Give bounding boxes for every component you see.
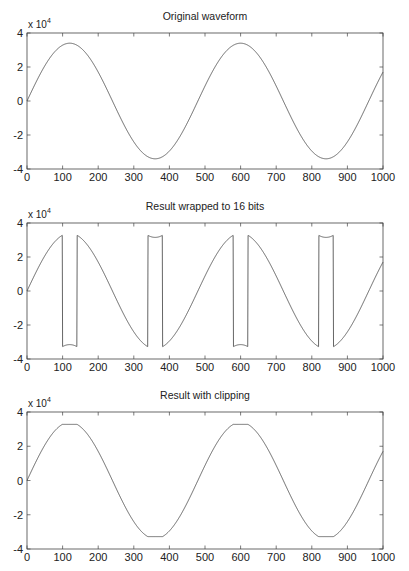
data-line [27,43,383,159]
axes-box [27,33,383,169]
x-tick-label: 1000 [371,551,395,563]
y-exponent: 4 [47,17,51,24]
x-tick-label: 200 [89,361,107,373]
x-tick-label: 400 [160,361,178,373]
x-tick-label: 400 [160,551,178,563]
y-exponent-label: x 104 [28,207,51,220]
y-exponent-label: x 104 [28,17,51,30]
x-tick-label: 1000 [371,171,395,183]
y-tick-label: 2 [17,440,23,452]
x-tick-label: 0 [24,171,30,183]
x-tick-label: 900 [338,361,356,373]
y-tick-label: 4 [17,406,23,418]
y-tick-label: 4 [17,27,23,39]
x-tick-label: 500 [196,551,214,563]
x-tick-label: 900 [338,551,356,563]
plot-original-waveform: Original waveform 0100200300400500600700… [13,10,395,183]
y-tick-label: 0 [17,475,23,487]
x-tick-label: 800 [303,361,321,373]
x-tick-label: 300 [125,551,143,563]
x-tick-label: 900 [338,171,356,183]
x-tick-label: 500 [196,361,214,373]
y-tick-label: 2 [17,61,23,73]
plot-clipping: Result with clipping 0100200300400500600… [13,389,395,563]
y-tick-label: -4 [13,353,23,365]
x-tick-label: 100 [53,551,71,563]
x-tick-label: 300 [125,171,143,183]
x-tick-label: 600 [231,551,249,563]
x-tick-label: 100 [53,361,71,373]
plot-title: Result wrapped to 16 bits [146,200,264,212]
data-line [27,424,383,536]
x-tick-label: 800 [303,551,321,563]
y-tick-label: 4 [17,217,23,229]
y-tick-label: -2 [13,509,23,521]
plot-wrapped-16-bits: Result wrapped to 16 bits 01002003004005… [13,200,395,373]
x-tick-label: 700 [267,551,285,563]
y-tick-label: 0 [17,285,23,297]
plot-title: Original waveform [163,10,248,22]
x-tick-label: 200 [89,551,107,563]
y-tick-label: -2 [13,129,23,141]
x-tick-label: 300 [125,361,143,373]
x-tick-label: 200 [89,171,107,183]
figure: Original waveform 0100200300400500600700… [0,0,409,571]
x-tick-label: 500 [196,171,214,183]
y-exponent: 4 [47,207,51,214]
axes-box [27,223,383,359]
x-tick-label: 100 [53,171,71,183]
y-tick-label: -4 [13,543,23,555]
x-tick-label: 800 [303,171,321,183]
y-tick-label: 0 [17,95,23,107]
axes-box [27,412,383,549]
data-line [27,235,383,346]
y-exponent-label: x 104 [28,396,51,409]
x-tick-label: 700 [267,361,285,373]
y-exponent: 4 [47,396,51,403]
y-tick-label: 2 [17,251,23,263]
x-tick-label: 600 [231,361,249,373]
x-tick-label: 400 [160,171,178,183]
plot-title: Result with clipping [160,389,250,401]
y-tick-label: -2 [13,319,23,331]
y-tick-label: -4 [13,163,23,175]
x-tick-label: 0 [24,361,30,373]
x-tick-label: 1000 [371,361,395,373]
x-tick-label: 600 [231,171,249,183]
x-tick-label: 700 [267,171,285,183]
x-tick-label: 0 [24,551,30,563]
